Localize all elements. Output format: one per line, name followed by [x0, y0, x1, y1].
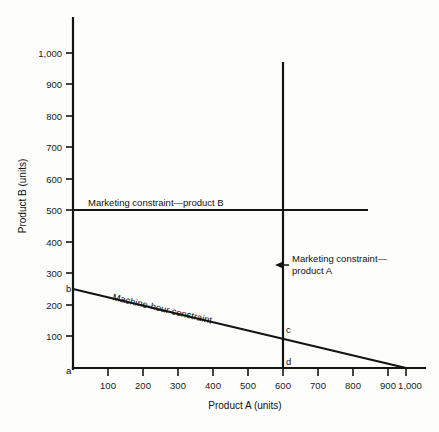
x-tick-label-1000: 1,000 [398, 380, 422, 391]
x-axis-title: Product A (units) [208, 400, 281, 411]
marketing-constraint-product-a-label-line1: Marketing constraint— [292, 253, 388, 264]
x-tick-label-600: 600 [275, 380, 291, 391]
y-tick-label-400: 400 [46, 237, 62, 248]
y-tick-label-800: 800 [46, 111, 62, 122]
vertex-label-a: a [66, 365, 72, 376]
linear-programming-chart: 1,000 900 800 700 600 500 400 300 200 10… [0, 0, 439, 432]
x-tick-label-200: 200 [135, 380, 151, 391]
y-tick-label-1000: 1,000 [38, 48, 62, 59]
vertex-label-b: b [66, 283, 71, 294]
y-axis-title: Product B (units) [17, 159, 28, 233]
vertex-label-c: c [286, 324, 291, 335]
x-tick-label-100: 100 [100, 380, 116, 391]
x-tick-label-800: 800 [345, 380, 361, 391]
x-tick-label-300: 300 [170, 380, 186, 391]
y-tick-label-200: 200 [46, 300, 62, 311]
vertex-label-d: d [286, 356, 291, 367]
machine-hour-constraint-label: Machine-hour constraint [112, 291, 214, 325]
x-tick-label-700: 700 [310, 380, 326, 391]
x-tick-label-500: 500 [240, 380, 256, 391]
marketing-constraint-product-a-label-line2: product A [292, 265, 333, 276]
y-tick-label-900: 900 [46, 79, 62, 90]
x-tick-label-900: 900 [380, 380, 396, 391]
x-tick-label-400: 400 [205, 380, 221, 391]
y-tick-label-700: 700 [46, 142, 62, 153]
y-tick-label-100: 100 [46, 331, 62, 342]
y-tick-label-600: 600 [46, 174, 62, 185]
marketing-constraint-product-b-label: Marketing constraint—product B [88, 197, 224, 208]
y-tick-label-500: 500 [46, 205, 62, 216]
y-tick-label-300: 300 [46, 268, 62, 279]
x-axis-ticks [108, 368, 406, 376]
chart-page: 1,000 900 800 700 600 500 400 300 200 10… [0, 0, 439, 432]
marketing-constraint-product-a-arrow-icon [275, 262, 289, 268]
